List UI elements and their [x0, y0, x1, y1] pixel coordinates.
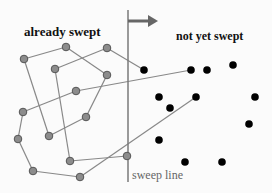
edge-line: [24, 47, 66, 59]
unswept-point: [192, 93, 200, 101]
swept-point: [45, 132, 53, 140]
swept-point: [103, 71, 111, 79]
swept-point: [19, 108, 27, 116]
swept-point: [20, 55, 28, 63]
swept-point: [72, 87, 80, 95]
edge-line: [86, 75, 107, 117]
swept-point: [62, 43, 70, 51]
unswept-point: [187, 66, 195, 74]
unswept-point: [155, 136, 163, 144]
swept-point: [51, 65, 59, 73]
edge-line: [76, 70, 191, 91]
arrow-right-icon: [148, 15, 158, 27]
sweep-line-diagram: already swept not yet swept sweep line: [0, 0, 272, 193]
sweep-line-label: sweep line: [132, 168, 183, 183]
swept-point: [29, 167, 37, 175]
edge-line: [49, 117, 86, 136]
unswept-point: [155, 93, 163, 101]
swept-point: [76, 173, 84, 181]
edge-line: [66, 47, 107, 75]
edge-line: [24, 59, 49, 136]
edge-line: [18, 139, 33, 171]
unswept-point: [245, 120, 253, 128]
unswept-point: [218, 158, 226, 166]
edge-line: [33, 171, 80, 177]
not-yet-swept-label: not yet swept: [176, 29, 243, 44]
edge-line: [107, 48, 144, 70]
unswept-point: [181, 158, 189, 166]
edge-line: [55, 48, 107, 69]
already-swept-label: already swept: [24, 24, 101, 40]
unswept-point: [229, 61, 237, 69]
edge-line: [55, 69, 70, 161]
swept-point: [14, 135, 22, 143]
swept-point: [123, 152, 131, 160]
swept-point: [103, 44, 111, 52]
unswept-point: [140, 66, 148, 74]
swept-point: [82, 113, 90, 121]
swept-point: [66, 157, 74, 165]
unswept-point: [203, 66, 211, 74]
edge-line: [70, 156, 127, 161]
unswept-point: [166, 104, 174, 112]
edge-line: [80, 97, 196, 177]
edge-line: [23, 91, 76, 112]
unswept-point: [251, 93, 259, 101]
